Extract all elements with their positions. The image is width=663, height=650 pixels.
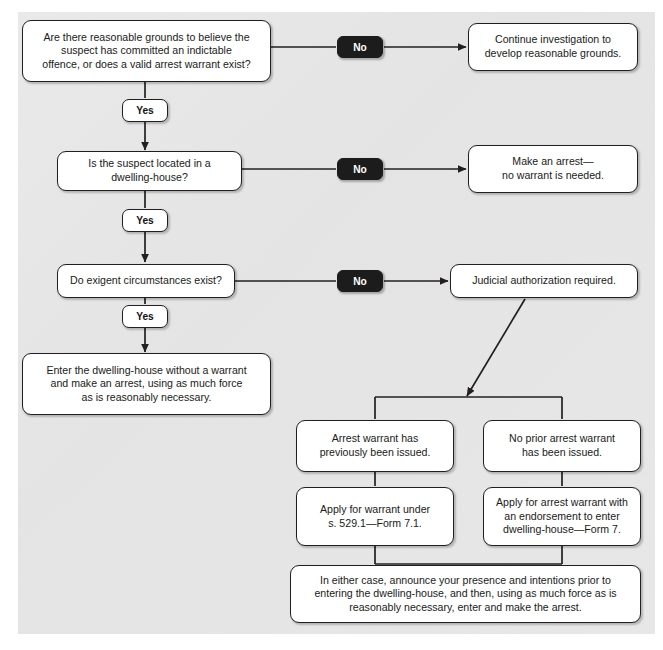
badge-no-reasonable-grounds: No [337, 36, 383, 58]
badge-yes-exigent-circumstances: Yes [122, 305, 168, 328]
outcome-box-judicial-authorization: Judicial authorization required. [450, 264, 638, 298]
badge-no-dwelling-house-label: No [353, 164, 367, 175]
outcome-box-continue-investigation: Continue investigation to develop reason… [468, 23, 638, 71]
badge-yes-dwelling-house-label: Yes [136, 215, 154, 226]
final-box-announce-presence-label: In either case, announce your presence a… [314, 574, 616, 615]
badge-no-reasonable-grounds-label: No [353, 42, 367, 53]
action-box-apply-warrant-529-1: Apply for warrant under s. 529.1—Form 7.… [296, 487, 454, 546]
outcome-box-judicial-authorization-label: Judicial authorization required. [472, 274, 616, 288]
question-box-exigent-circumstances: Do exigent circumstances exist? [57, 264, 235, 298]
badge-yes-reasonable-grounds: Yes [122, 99, 168, 122]
branch-box-warrant-previously-issued-label: Arrest warrant has previously been issue… [320, 432, 431, 459]
branch-box-no-prior-warrant-label: No prior arrest warrant has been issued. [509, 432, 615, 459]
outcome-box-make-arrest-no-warrant: Make an arrest— no warrant is needed. [468, 145, 638, 193]
outcome-box-make-arrest-no-warrant-label: Make an arrest— no warrant is needed. [502, 155, 604, 182]
question-box-dwelling-house-label: Is the suspect located in a dwelling-hou… [88, 157, 211, 184]
action-box-apply-warrant-endorsement: Apply for arrest warrant with an endorse… [483, 487, 641, 546]
branch-box-no-prior-warrant: No prior arrest warrant has been issued. [483, 420, 641, 472]
final-box-announce-presence: In either case, announce your presence a… [290, 565, 641, 623]
flowchart-root: Are there reasonable grounds to believe … [0, 0, 663, 650]
badge-yes-dwelling-house: Yes [122, 209, 168, 232]
badge-no-dwelling-house: No [337, 158, 383, 180]
question-box-exigent-circumstances-label: Do exigent circumstances exist? [70, 274, 222, 288]
outcome-box-continue-investigation-label: Continue investigation to develop reason… [485, 33, 622, 60]
action-box-apply-warrant-529-1-label: Apply for warrant under s. 529.1—Form 7.… [320, 503, 430, 530]
branch-box-warrant-previously-issued: Arrest warrant has previously been issue… [296, 420, 454, 472]
badge-no-exigent-circumstances-label: No [353, 276, 367, 287]
outcome-box-enter-dwelling-house-label: Enter the dwelling-house without a warra… [46, 364, 246, 405]
question-box-dwelling-house: Is the suspect located in a dwelling-hou… [57, 151, 242, 191]
outcome-box-enter-dwelling-house: Enter the dwelling-house without a warra… [22, 353, 271, 415]
badge-yes-reasonable-grounds-label: Yes [136, 105, 154, 116]
action-box-apply-warrant-endorsement-label: Apply for arrest warrant with an endorse… [496, 496, 628, 537]
question-box-reasonable-grounds-label: Are there reasonable grounds to believe … [42, 31, 250, 72]
badge-yes-exigent-circumstances-label: Yes [136, 311, 154, 322]
badge-no-exigent-circumstances: No [337, 270, 383, 292]
question-box-reasonable-grounds: Are there reasonable grounds to believe … [22, 20, 271, 82]
